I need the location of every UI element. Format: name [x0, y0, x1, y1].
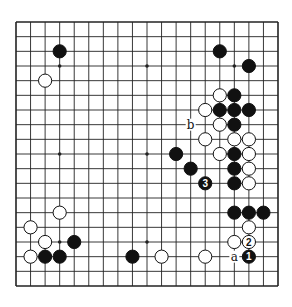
white-stone [53, 206, 66, 219]
point-label-a: a [231, 250, 238, 264]
go-board: 123 ab [0, 0, 292, 307]
white-stone [242, 162, 255, 175]
black-stone [184, 162, 197, 175]
black-stone [228, 103, 241, 116]
star-point [233, 64, 237, 68]
white-stone [199, 133, 212, 146]
black-stone [213, 45, 226, 58]
stone-number: 2 [246, 237, 252, 248]
star-point [145, 240, 149, 244]
black-stone [228, 147, 241, 160]
white-stone [242, 177, 255, 190]
white-stone [213, 147, 226, 160]
black-stone [213, 103, 226, 116]
numbered-stone-1: 1 [242, 250, 255, 263]
black-stone [228, 177, 241, 190]
white-stone [242, 147, 255, 160]
white-stone [155, 250, 168, 263]
star-point [58, 152, 62, 156]
white-stone [242, 133, 255, 146]
white-stone [213, 118, 226, 131]
white-stone [39, 235, 52, 248]
point-label-b: b [187, 118, 195, 132]
black-stone [53, 45, 66, 58]
black-stone [126, 250, 139, 263]
black-stone [242, 103, 255, 116]
white-stone [24, 221, 37, 234]
white-stone [242, 221, 255, 234]
numbered-stone-3: 3 [199, 177, 212, 190]
black-stone [53, 250, 66, 263]
black-stone [242, 206, 255, 219]
black-stone [228, 162, 241, 175]
black-stone [257, 206, 270, 219]
white-stone [228, 133, 241, 146]
star-point [145, 64, 149, 68]
stone-number: 1 [246, 251, 252, 262]
black-stone [228, 118, 241, 131]
white-stone [213, 89, 226, 102]
black-stone [68, 235, 81, 248]
star-point [58, 64, 62, 68]
white-stone [199, 250, 212, 263]
black-stone [242, 59, 255, 72]
black-stone [228, 89, 241, 102]
white-stone [199, 103, 212, 116]
black-stone [228, 206, 241, 219]
black-stone [170, 147, 183, 160]
star-point [58, 240, 62, 244]
stone-number: 3 [202, 178, 208, 189]
white-stone [24, 250, 37, 263]
black-stone [39, 250, 52, 263]
white-stone [228, 235, 241, 248]
white-stone [39, 74, 52, 87]
numbered-stone-2: 2 [242, 235, 255, 248]
star-point [145, 152, 149, 156]
